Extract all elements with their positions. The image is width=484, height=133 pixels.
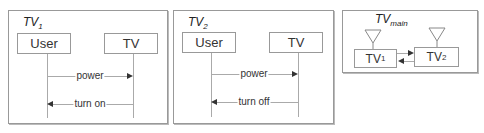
message-label: power — [239, 68, 268, 79]
arrow-right-icon — [127, 73, 133, 79]
arrow-right-icon — [408, 50, 414, 56]
component-tv1: TV1 — [354, 49, 397, 68]
component-tv2: TV2 — [414, 47, 459, 67]
message-label: power — [75, 70, 104, 81]
antenna-icon — [428, 27, 446, 49]
panel-title: TV1 — [23, 15, 43, 31]
lifeline-tv: TV — [269, 32, 323, 53]
lifeline-tv-line — [298, 53, 299, 117]
arrow-left-icon — [47, 101, 53, 107]
lifeline-tv: TV — [104, 33, 158, 54]
lifeline-user: User — [17, 33, 71, 54]
sequence-diagram-tv2: TV2 User TV power turn off — [173, 10, 334, 124]
panel-title: TV2 — [188, 15, 208, 31]
lifeline-user: User — [182, 32, 236, 53]
composition-diagram-tvmain: TVmain TV1 TV2 — [342, 10, 478, 73]
arrow-left-icon — [398, 58, 404, 64]
message-label: turn on — [73, 98, 106, 109]
panel-title: TVmain — [375, 12, 408, 28]
connector-tv2-to-tv1 — [403, 61, 414, 62]
arrow-left-icon — [211, 99, 217, 105]
antenna-icon — [364, 29, 382, 49]
arrow-right-icon — [292, 71, 298, 77]
sequence-diagram-tv1: TV1 User TV power turn on — [8, 10, 168, 124]
lifeline-user-line — [211, 53, 212, 117]
lifeline-tv-line — [133, 54, 134, 118]
message-label: turn off — [238, 96, 271, 107]
lifeline-user-line — [47, 54, 48, 118]
